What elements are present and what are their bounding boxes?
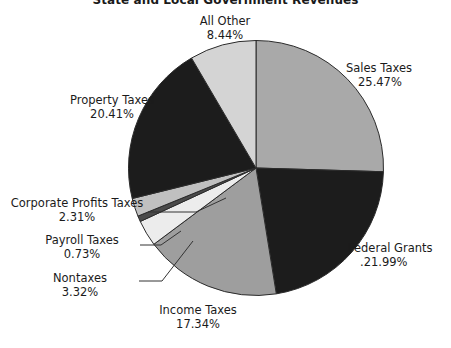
slice-label-income-taxes: Income Taxes 17.34% bbox=[118, 303, 278, 331]
slice-label-sales-taxes-name: Sales Taxes bbox=[346, 61, 450, 75]
slice-label-nontaxes-value: 3.32% bbox=[20, 285, 140, 299]
slice-label-property-taxes-name: Property Taxes bbox=[52, 93, 172, 107]
slice-label-all-other-name: All Other bbox=[160, 14, 290, 28]
chart-canvas: State and Local Government Revenues All … bbox=[0, 0, 451, 348]
slice-label-corporate-profits-taxes-value: 2.31% bbox=[2, 210, 152, 224]
slice-label-all-other-value: 8.44% bbox=[160, 28, 290, 42]
slice-label-corporate-profits-taxes: Corporate Profits Taxes 2.31% bbox=[2, 196, 152, 224]
slice-label-property-taxes-value: 20.41% bbox=[52, 107, 172, 121]
slice-label-nontaxes: Nontaxes 3.32% bbox=[20, 271, 140, 299]
slice-label-income-taxes-value: 17.34% bbox=[118, 317, 278, 331]
slice-label-federal-grants-name: Federal Grants bbox=[348, 241, 451, 255]
slice-label-payroll-taxes: Payroll Taxes 0.73% bbox=[22, 233, 142, 261]
slice-label-payroll-taxes-value: 0.73% bbox=[22, 247, 142, 261]
slice-label-federal-grants: Federal Grants .21.99% bbox=[348, 241, 451, 269]
slice-label-corporate-profits-taxes-name: Corporate Profits Taxes bbox=[2, 196, 152, 210]
slice-label-sales-taxes-value: 25.47% bbox=[346, 75, 450, 89]
slice-label-income-taxes-name: Income Taxes bbox=[118, 303, 278, 317]
slice-label-sales-taxes: Sales Taxes 25.47% bbox=[346, 61, 450, 89]
slice-label-federal-grants-value: .21.99% bbox=[348, 255, 451, 269]
slice-label-all-other: All Other 8.44% bbox=[160, 14, 290, 42]
pie-slice-federal-grants[interactable] bbox=[256, 168, 383, 294]
slice-label-nontaxes-name: Nontaxes bbox=[20, 271, 140, 285]
slice-label-property-taxes: Property Taxes 20.41% bbox=[52, 93, 172, 121]
slice-label-payroll-taxes-name: Payroll Taxes bbox=[22, 233, 142, 247]
